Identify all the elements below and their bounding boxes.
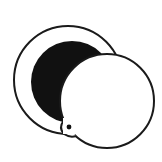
hinge-pin-dot bbox=[67, 125, 72, 130]
compact-mirror-icon bbox=[0, 0, 162, 162]
front-lid bbox=[60, 54, 154, 148]
